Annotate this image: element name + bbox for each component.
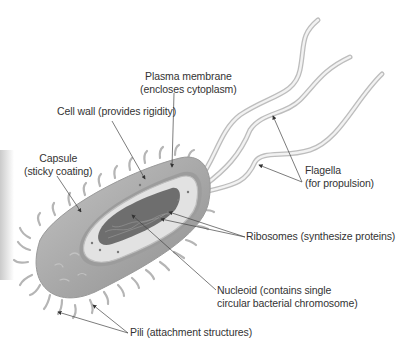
label-line: Cell wall (provides rigidity) <box>57 105 176 118</box>
label-line: Ribosomes (synthesize proteins) <box>246 230 395 243</box>
label-plasma-membrane: Plasma membrane (encloses cytoplasm) <box>140 70 237 96</box>
label-line: Plasma membrane <box>140 70 237 83</box>
label-line: (sticky coating) <box>24 165 92 178</box>
bacterial-cell-diagram: Plasma membrane (encloses cytoplasm) Cel… <box>0 0 406 357</box>
label-line: (for propulsion) <box>305 177 374 190</box>
label-capsule: Capsule (sticky coating) <box>24 152 92 178</box>
label-line: Nucleoid (contains single <box>217 284 358 297</box>
label-ribosomes: Ribosomes (synthesize proteins) <box>246 230 395 243</box>
label-nucleoid: Nucleoid (contains single circular bacte… <box>217 284 358 310</box>
label-flagella: Flagella (for propulsion) <box>305 164 374 190</box>
label-pili: Pili (attachment structures) <box>130 326 252 339</box>
label-line: Pili (attachment structures) <box>130 326 252 339</box>
label-line: (encloses cytoplasm) <box>140 83 237 96</box>
label-line: Capsule <box>24 152 92 165</box>
label-line: Flagella <box>305 164 374 177</box>
label-line: circular bacterial chromosome) <box>217 297 358 310</box>
label-cell-wall: Cell wall (provides rigidity) <box>57 105 176 118</box>
